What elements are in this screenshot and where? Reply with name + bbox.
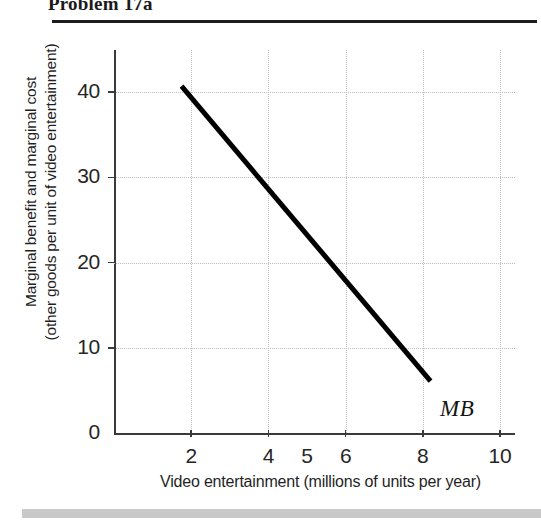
- y-axis-tick-label: 20: [56, 250, 100, 274]
- gridline-vertical: [346, 50, 347, 433]
- y-axis-tick: [108, 347, 115, 349]
- x-axis-tick-label: 5: [292, 444, 322, 468]
- y-axis-tick-label: 10: [56, 335, 100, 359]
- x-axis-tick: [190, 430, 192, 437]
- gridline-vertical: [423, 50, 424, 433]
- title-divider: [52, 20, 537, 23]
- y-axis-tick: [108, 262, 115, 264]
- y-axis-tick: [108, 91, 115, 93]
- x-axis-tick-label: 8: [408, 444, 438, 468]
- y-axis-title: Marginal benefit and marginal cost (othe…: [21, 7, 61, 377]
- x-axis-tick: [422, 430, 424, 437]
- x-axis-tick-label: 2: [176, 444, 206, 468]
- gridline-vertical: [191, 50, 192, 433]
- plot-area: [114, 50, 515, 434]
- x-axis-line: [114, 433, 515, 435]
- y-axis-tick-label: 30: [56, 164, 100, 188]
- footer-bar: [22, 509, 541, 518]
- gridline-horizontal: [114, 348, 515, 349]
- page-title: Problem 17a: [48, 0, 153, 15]
- x-axis-title: Video entertainment (millions of units p…: [100, 473, 541, 491]
- series-annotation-mb: MB: [440, 396, 474, 422]
- y-axis-title-line1: Marginal benefit and marginal cost: [21, 7, 41, 377]
- x-axis-tick-label: 6: [331, 444, 361, 468]
- y-axis-tick-label: 40: [56, 79, 100, 103]
- chart-figure: 0102030402456810 MB Marginal benefit and…: [0, 24, 541, 504]
- x-axis-tick-label: 10: [485, 444, 515, 468]
- gridline-vertical: [268, 50, 269, 433]
- x-axis-tick: [268, 430, 270, 437]
- title-block: Problem 17a: [0, 0, 541, 24]
- gridline-horizontal: [114, 92, 515, 93]
- x-axis-tick-label: 4: [253, 444, 283, 468]
- gridline-vertical: [500, 50, 501, 433]
- x-axis-tick: [499, 430, 501, 437]
- y-axis-tick: [108, 177, 115, 179]
- y-axis-title-line2: (other goods per unit of video entertain…: [41, 7, 61, 377]
- y-axis-tick-label: 0: [56, 420, 100, 444]
- y-axis-line: [114, 50, 116, 435]
- gridline-horizontal: [114, 263, 515, 264]
- gridline-horizontal: [114, 177, 515, 178]
- x-axis-tick: [345, 430, 347, 437]
